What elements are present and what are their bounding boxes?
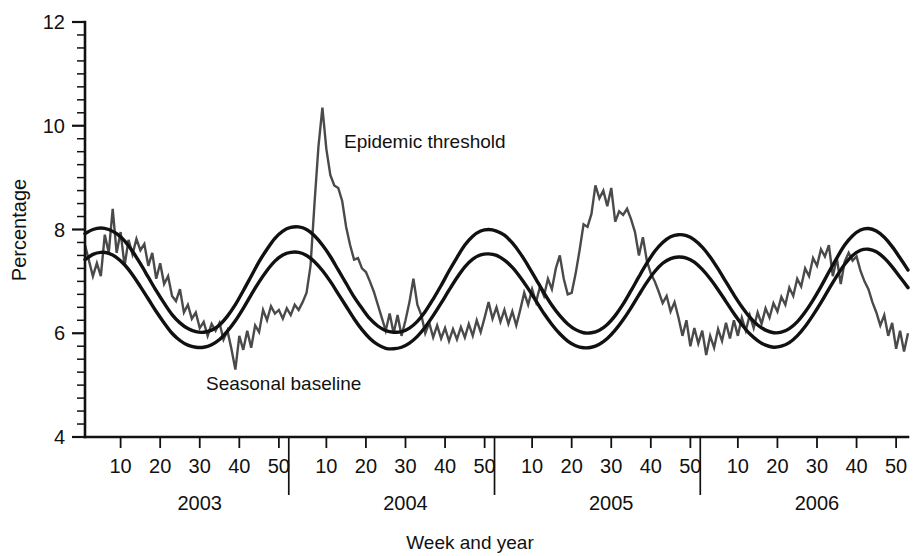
x-tick-label: 50 [885, 455, 907, 477]
x-tick-label: 40 [228, 455, 250, 477]
y-tick-label: 4 [54, 426, 65, 448]
x-tick-label: 50 [268, 455, 290, 477]
x-tick-label: 20 [149, 455, 171, 477]
y-tick-label: 10 [43, 115, 65, 137]
influenza-surveillance-chart: 4681012 10203040501020304050102030405010… [0, 0, 920, 556]
chart-container: 4681012 10203040501020304050102030405010… [0, 0, 920, 556]
x-tick-label: 10 [727, 455, 749, 477]
y-axis-title: Percentage [8, 179, 30, 281]
x-tick-label: 20 [561, 455, 583, 477]
x-tick-label: 50 [679, 455, 701, 477]
year-label: 2003 [177, 492, 222, 514]
annotation-epidemic-threshold: Epidemic threshold [344, 131, 506, 152]
year-label: 2005 [589, 492, 634, 514]
y-tick-label: 8 [54, 219, 65, 241]
x-tick-label: 30 [189, 455, 211, 477]
x-tick-label: 30 [600, 455, 622, 477]
x-tick-label: 10 [521, 455, 543, 477]
year-label: 2004 [383, 492, 428, 514]
x-axis-title: Week and year [406, 532, 534, 553]
y-tick-label: 6 [54, 322, 65, 344]
y-tick-label: 12 [43, 11, 65, 33]
x-tick-label: 10 [315, 455, 337, 477]
x-tick-label: 20 [766, 455, 788, 477]
x-tick-label: 20 [355, 455, 377, 477]
x-tick-label: 40 [434, 455, 456, 477]
x-tick-label: 40 [640, 455, 662, 477]
x-tick-label: 30 [394, 455, 416, 477]
x-tick-label: 40 [845, 455, 867, 477]
annotation-seasonal-baseline: Seasonal baseline [206, 373, 361, 394]
x-tick-label: 30 [806, 455, 828, 477]
x-tick-label: 10 [109, 455, 131, 477]
year-label: 2006 [795, 492, 840, 514]
x-tick-label: 50 [474, 455, 496, 477]
